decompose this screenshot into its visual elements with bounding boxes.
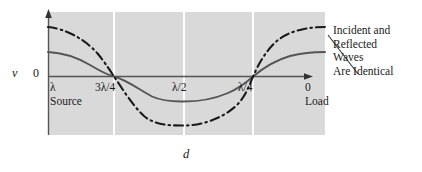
y-origin-label: 0 [33,67,39,79]
annotation-block: Incident and Reflected Waves Are Identic… [333,24,393,78]
annotation-line-4: Are Identical [333,65,393,79]
x-axis-label: d [183,148,189,161]
x-tick-label-3lambda-over-4: 3λ/4 [95,82,115,94]
standing-wave-figure: v 0 λ Source 3λ/4 λ/2 λ/4 0 Load d Incid… [0,0,422,172]
x-tick-sublabel-load: Load [305,96,329,108]
x-tick-label-lambda-over-2: λ/2 [172,82,187,94]
annotation-line-1: Incident and [333,24,393,38]
x-tick-label-lambda-over-4: λ/4 [238,82,253,94]
y-axis-label: v [12,67,18,80]
plot-background [48,12,325,135]
annotation-line-3: Waves [333,51,393,65]
x-tick-label-lambda: λ [50,82,56,94]
x-tick-sublabel-source: Source [50,96,82,108]
annotation-line-2: Reflected [333,38,393,52]
x-tick-label-zero: 0 [305,82,311,94]
